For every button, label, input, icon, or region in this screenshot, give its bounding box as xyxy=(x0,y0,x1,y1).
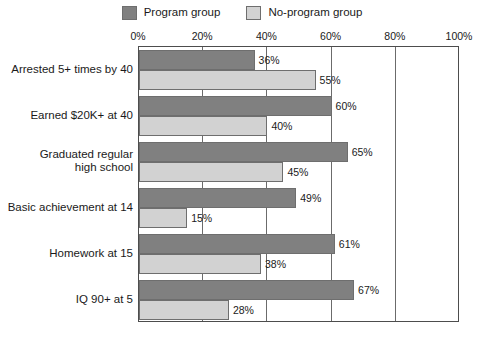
category-label-line: IQ 90+ at 5 xyxy=(0,293,133,306)
chart-legend: Program group No-program group xyxy=(0,6,484,20)
bar-value-label: 45% xyxy=(283,162,308,182)
bar-no-program-group[interactable] xyxy=(139,116,267,136)
bar-value-label: 65% xyxy=(348,142,373,162)
bar-no-program-group[interactable] xyxy=(139,162,283,182)
category-label-line: Graduated regular xyxy=(0,148,133,161)
category-label-line: Earned $20K+ at 40 xyxy=(0,109,133,122)
bar-program-group[interactable] xyxy=(139,280,354,300)
legend-label-no-program-group: No-program group xyxy=(268,7,362,19)
chart-category-group: 49%15% xyxy=(139,188,458,228)
plot-area: 36%55%60%40%65%45%49%15%61%38%67%28% xyxy=(138,46,459,322)
bar-no-program-group[interactable] xyxy=(139,254,261,274)
category-label: Basic achievement at 14 xyxy=(0,201,133,214)
bar-value-label: 15% xyxy=(187,208,212,228)
category-label: IQ 90+ at 5 xyxy=(0,293,133,306)
bar-value-label: 60% xyxy=(332,96,357,116)
bar-program-group[interactable] xyxy=(139,50,255,70)
category-label-line: Arrested 5+ times by 40 xyxy=(0,63,133,76)
bar-value-label: 36% xyxy=(255,50,280,70)
x-axis-tick-label: 100% xyxy=(446,31,473,42)
bar-value-label: 28% xyxy=(229,300,254,320)
legend-swatch-icon-program-group xyxy=(122,6,137,20)
bar-no-program-group[interactable] xyxy=(139,208,187,228)
bar-value-label: 40% xyxy=(267,116,292,136)
legend-label-program-group: Program group xyxy=(144,7,221,19)
x-axis-tick-label: 0% xyxy=(130,31,145,42)
bar-value-label: 61% xyxy=(335,234,360,254)
chart-container: Program group No-program group 0%20%40%6… xyxy=(0,0,484,337)
category-label-line: high school xyxy=(0,161,133,174)
x-axis-tick-label: 60% xyxy=(320,31,341,42)
y-axis-category-labels: Arrested 5+ times by 40Earned $20K+ at 4… xyxy=(0,46,133,322)
legend-item-no-program-group: No-program group xyxy=(246,6,362,20)
x-axis-tick-label: 80% xyxy=(384,31,405,42)
chart-category-group: 60%40% xyxy=(139,96,458,136)
category-label: Arrested 5+ times by 40 xyxy=(0,63,133,76)
bar-program-group[interactable] xyxy=(139,234,335,254)
x-axis-tick-label: 20% xyxy=(192,31,213,42)
bar-program-group[interactable] xyxy=(139,96,332,116)
category-label-line: Basic achievement at 14 xyxy=(0,201,133,214)
category-label: Graduated regularhigh school xyxy=(0,148,133,174)
chart-category-group: 61%38% xyxy=(139,234,458,274)
bar-program-group[interactable] xyxy=(139,188,296,208)
category-label: Earned $20K+ at 40 xyxy=(0,109,133,122)
bar-value-label: 55% xyxy=(316,70,341,90)
chart-category-group: 65%45% xyxy=(139,142,458,182)
bar-value-label: 49% xyxy=(296,188,321,208)
bar-program-group[interactable] xyxy=(139,142,348,162)
chart-category-group: 67%28% xyxy=(139,280,458,320)
bar-no-program-group[interactable] xyxy=(139,300,229,320)
x-axis-tick-label: 40% xyxy=(256,31,277,42)
legend-swatch-icon-no-program-group xyxy=(246,6,261,20)
category-label: Homework at 15 xyxy=(0,247,133,260)
bar-no-program-group[interactable] xyxy=(139,70,316,90)
bar-value-label: 38% xyxy=(261,254,286,274)
legend-item-program-group: Program group xyxy=(122,6,221,20)
category-label-line: Homework at 15 xyxy=(0,247,133,260)
x-axis-tick-labels: 0%20%40%60%80%100% xyxy=(0,31,484,45)
chart-category-group: 36%55% xyxy=(139,50,458,90)
bar-value-label: 67% xyxy=(354,280,379,300)
